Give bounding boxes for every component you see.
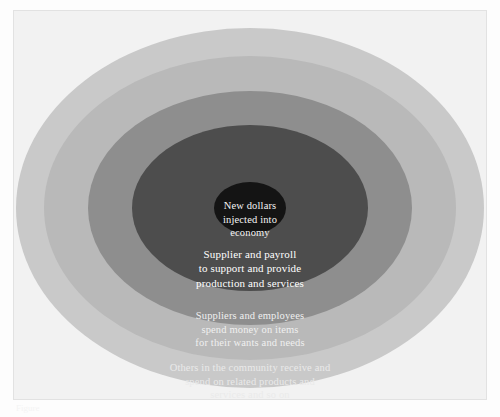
figure-root: New dollars injected into economy Suppli… bbox=[0, 0, 500, 417]
concentric-rings-graphic bbox=[14, 11, 486, 399]
core-ellipse bbox=[214, 182, 286, 234]
ripple-diagram-plate: New dollars injected into economy Suppli… bbox=[13, 10, 487, 400]
figure-caption: Figure bbox=[16, 403, 436, 414]
